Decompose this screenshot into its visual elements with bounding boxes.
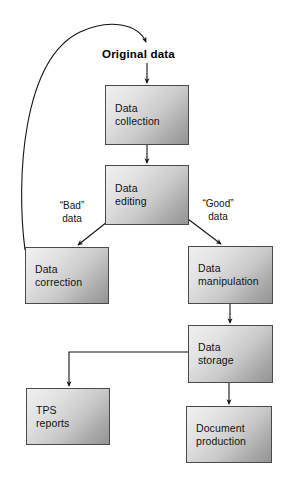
node-document-production: Document production: [186, 406, 272, 463]
node-data-editing-label: Data editing: [115, 182, 147, 208]
edge-label-bad-data: “Bad” data: [50, 200, 94, 225]
node-data-manipulation: Data manipulation: [188, 246, 273, 304]
node-data-manipulation-label: Data manipulation: [198, 262, 259, 288]
node-data-collection: Data collection: [105, 85, 189, 145]
original-data-title: Original data: [102, 48, 175, 60]
node-data-correction-label: Data correction: [35, 263, 82, 289]
node-data-storage-label: Data storage: [198, 341, 234, 367]
node-tps-reports: TPS reports: [26, 388, 110, 445]
node-data-storage: Data storage: [188, 325, 273, 383]
node-data-correction: Data correction: [25, 247, 109, 304]
node-document-production-label: Document production: [196, 422, 246, 448]
node-data-collection-label: Data collection: [115, 102, 160, 128]
flowchart-canvas: Original data Data collection Data editi…: [0, 0, 289, 483]
node-tps-reports-label: TPS reports: [36, 404, 69, 430]
connector-storage-to-tps: [69, 352, 188, 386]
edge-label-good-data: “Good” data: [193, 198, 243, 223]
node-data-editing: Data editing: [105, 165, 189, 225]
